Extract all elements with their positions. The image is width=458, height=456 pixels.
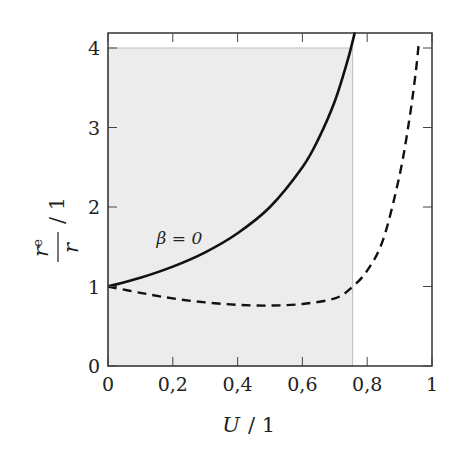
y-tick-label: 4 (88, 37, 100, 59)
chart: 00,20,40,60,81 01234 β = 0 U / 1 re r / … (0, 0, 458, 456)
shaded-region (108, 48, 353, 366)
y-axis-label: re r / 1 (29, 197, 83, 262)
y-tick-label: 3 (88, 117, 100, 139)
x-tick-label: 0,8 (352, 373, 382, 395)
y-tick-label: 2 (88, 196, 100, 218)
x-tick-label: 0 (102, 373, 114, 395)
x-tick-label: 1 (426, 373, 438, 395)
y-tick-label: 0 (88, 355, 100, 377)
x-tick-label: 0,4 (222, 373, 252, 395)
x-tick-label: 0,6 (287, 373, 317, 395)
y-tick-labels: 01234 (88, 37, 100, 377)
y-axis-denominator: r (59, 241, 83, 253)
y-tick-label: 1 (88, 276, 100, 298)
x-axis-label: U / 1 (222, 413, 275, 437)
y-axis-numerator: re (29, 239, 53, 257)
y-axis-unit: / 1 (45, 197, 69, 224)
x-axis-var: U (222, 413, 241, 437)
x-tick-labels: 00,20,40,60,81 (102, 373, 438, 395)
x-tick-label: 0,2 (158, 373, 188, 395)
x-axis-unit: / 1 (248, 413, 275, 437)
beta-annotation: β = 0 (156, 228, 203, 248)
